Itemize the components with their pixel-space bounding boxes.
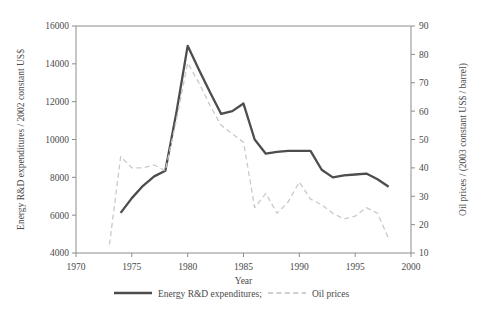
y-tick-label-left: 8000: [50, 173, 69, 183]
legend-label-energy-rd: Energy R&D expenditures;: [158, 289, 262, 299]
y-axis-title-right: Oil prices / (2003 constant US$ / barrel…: [458, 63, 469, 216]
x-tick-label: 1975: [122, 262, 141, 272]
y-tick-label-right: 80: [419, 50, 429, 60]
y-tick-label-right: 20: [419, 220, 429, 230]
y-tick-label-right: 40: [419, 163, 429, 173]
y-tick-label-left: 10000: [45, 135, 69, 145]
legend-label-oil-prices: Oil prices: [312, 289, 350, 299]
dual-axis-line-chart: 1970197519801985199019952000400060008000…: [0, 0, 481, 312]
series-group: [110, 46, 389, 245]
x-tick-label: 2000: [402, 262, 421, 272]
y-tick-label-left: 12000: [45, 97, 69, 107]
x-tick-label: 1980: [178, 262, 197, 272]
series-line-energy-rd: [121, 46, 389, 213]
x-axis-title: Year: [235, 276, 253, 286]
axes-group: 1970197519801985199019952000400060008000…: [45, 21, 429, 272]
y-tick-label-left: 4000: [50, 248, 69, 258]
x-tick-label: 1970: [67, 262, 86, 272]
series-line-oil-prices: [110, 63, 389, 245]
x-tick-label: 1985: [234, 262, 253, 272]
chart-legend: Energy R&D expenditures;Oil prices: [114, 289, 350, 299]
chart-figure: 1970197519801985199019952000400060008000…: [0, 0, 481, 312]
y-tick-label-right: 60: [419, 107, 429, 117]
y-axis-title-left: Energy R&D expenditures / 2002 constant …: [16, 49, 26, 230]
y-tick-label-left: 16000: [45, 21, 69, 31]
y-tick-label-right: 10: [419, 248, 429, 258]
axis-titles-group: YearEnergy R&D expenditures / 2002 const…: [16, 49, 469, 286]
y-tick-label-right: 30: [419, 192, 429, 202]
y-tick-label-left: 6000: [50, 211, 69, 221]
y-tick-label-left: 14000: [45, 59, 69, 69]
y-tick-label-right: 70: [419, 78, 429, 88]
x-tick-label: 1990: [290, 262, 309, 272]
y-tick-label-right: 90: [419, 21, 429, 31]
x-tick-label: 1995: [346, 262, 365, 272]
y-tick-label-right: 50: [419, 135, 429, 145]
